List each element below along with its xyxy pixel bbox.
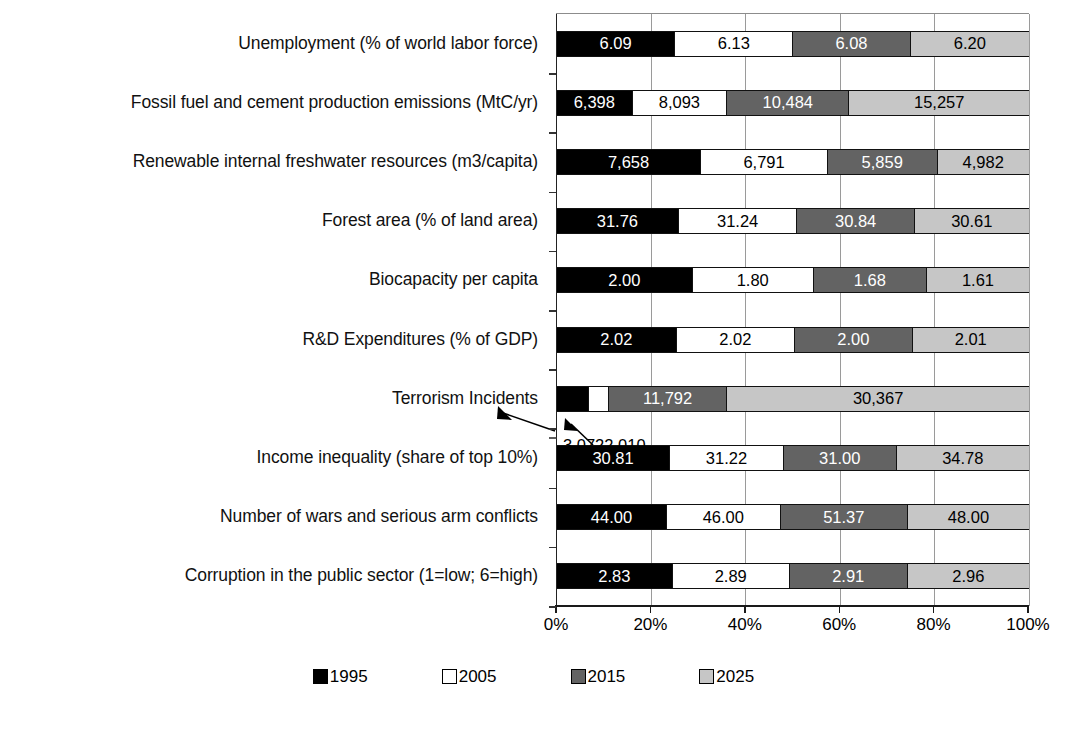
chart-legend: 1995200520152025 — [0, 668, 1067, 685]
legend-swatch-icon — [699, 669, 714, 684]
y-tick — [549, 310, 556, 312]
legend-label: 1995 — [330, 668, 368, 685]
x-tick-label: 80% — [917, 615, 951, 635]
bar-segment-2025[interactable]: 30.61 — [914, 209, 1029, 233]
category-label: Unemployment (% of world labor force) — [238, 30, 538, 56]
bar-segment-2015[interactable]: 1.68 — [813, 268, 926, 292]
bar-row[interactable]: 7,6586,7915,8594,982 — [557, 149, 1029, 175]
bar-segment-1995[interactable]: 6.09 — [557, 32, 674, 56]
bar-segment-2005[interactable]: 46.00 — [666, 505, 780, 529]
x-tick-label: 0% — [544, 615, 569, 635]
bar-segment-2005[interactable]: 2.02 — [676, 328, 795, 352]
bar-segment-2015[interactable]: 5,859 — [827, 150, 937, 174]
y-tick — [549, 369, 556, 371]
bar-segment-2005[interactable] — [588, 387, 608, 411]
bar-row[interactable]: 44.0046.0051.3748.00 — [557, 504, 1029, 530]
bar-row[interactable]: 6.096.136.086.20 — [557, 31, 1029, 57]
legend-item-2025[interactable]: 2025 — [699, 668, 754, 685]
y-tick — [549, 488, 556, 490]
stacked-bar-chart: Unemployment (% of world labor force)Fos… — [0, 0, 1067, 729]
legend-swatch-icon — [313, 669, 328, 684]
category-label: Renewable internal freshwater resources … — [133, 148, 538, 174]
category-label: Corruption in the public sector (1=low; … — [185, 562, 538, 588]
bar-segment-2015[interactable]: 31.00 — [783, 446, 896, 470]
bar-row[interactable]: 11,79230,367 — [557, 386, 1029, 412]
category-axis-labels: Unemployment (% of world labor force)Fos… — [0, 14, 548, 606]
bar-segment-1995[interactable]: 2.00 — [557, 268, 692, 292]
bar-row[interactable]: 2.832.892.912.96 — [557, 563, 1029, 589]
bar-segment-2025[interactable]: 2.96 — [907, 564, 1029, 588]
category-label: Number of wars and serious arm conflicts — [220, 503, 538, 529]
bar-segment-1995[interactable]: 2.02 — [557, 328, 676, 352]
bar-segment-2005[interactable]: 31.24 — [678, 209, 797, 233]
x-tick-label: 100% — [1006, 615, 1049, 635]
y-tick — [549, 428, 556, 430]
bar-segment-2015[interactable]: 30.84 — [796, 209, 913, 233]
category-label: Biocapacity per capita — [369, 266, 538, 292]
bar-segment-2015[interactable]: 2.91 — [789, 564, 907, 588]
bar-segment-1995[interactable]: 2.83 — [557, 564, 672, 588]
bar-segment-2005[interactable]: 1.80 — [692, 268, 813, 292]
bar-segment-1995[interactable]: 6,398 — [557, 91, 632, 115]
x-tick-20 — [650, 606, 652, 613]
bar-segment-1995[interactable]: 7,658 — [557, 150, 700, 174]
bar-row[interactable]: 6,3988,09310,48415,257 — [557, 90, 1029, 116]
bar-row[interactable]: 31.7631.2430.8430.61 — [557, 208, 1029, 234]
bar-segment-2015[interactable]: 2.00 — [794, 328, 911, 352]
bar-segment-2015[interactable]: 6.08 — [792, 32, 909, 56]
y-tick — [549, 132, 556, 134]
legend-swatch-icon — [442, 669, 457, 684]
category-label: Terrorism Incidents — [392, 385, 538, 411]
bar-segment-2015[interactable]: 10,484 — [726, 91, 848, 115]
legend-swatch-icon — [571, 669, 586, 684]
x-tick-60 — [839, 606, 841, 613]
bar-segment-1995[interactable] — [557, 387, 588, 411]
bar-row[interactable]: 2.001.801.681.61 — [557, 267, 1029, 293]
bar-segment-2015[interactable]: 51.37 — [780, 505, 907, 529]
bar-segment-2025[interactable]: 6.20 — [910, 32, 1029, 56]
category-label: Forest area (% of land area) — [322, 207, 538, 233]
bar-segment-2025[interactable]: 2.01 — [912, 328, 1029, 352]
legend-item-2015[interactable]: 2015 — [571, 668, 626, 685]
bar-segment-1995[interactable]: 44.00 — [557, 505, 666, 529]
bar-segment-2025[interactable]: 48.00 — [907, 505, 1029, 529]
bar-segment-2015[interactable]: 11,792 — [608, 387, 726, 411]
bar-segment-2025[interactable]: 4,982 — [937, 150, 1029, 174]
x-tick-40 — [744, 606, 746, 613]
bar-segment-1995[interactable]: 31.76 — [557, 209, 678, 233]
y-tick — [549, 606, 556, 608]
x-axis-line — [555, 605, 1029, 607]
x-tick-label: 60% — [822, 615, 856, 635]
legend-label: 2015 — [588, 668, 626, 685]
category-label: R&D Expenditures (% of GDP) — [302, 326, 538, 352]
plot-area: 6.096.136.086.206,3988,09310,48415,2577,… — [556, 14, 1030, 606]
legend-label: 2005 — [459, 668, 497, 685]
legend-item-1995[interactable]: 1995 — [313, 668, 368, 685]
bar-segment-2005[interactable]: 6,791 — [700, 150, 827, 174]
x-tick-label: 40% — [728, 615, 762, 635]
bar-segment-2025[interactable]: 30,367 — [726, 387, 1029, 411]
terrorism-annotation-label: 3,0722,010 — [563, 436, 646, 455]
bar-segment-2005[interactable]: 2.89 — [672, 564, 789, 588]
category-label: Income inequality (share of top 10%) — [257, 444, 538, 470]
x-tick-label: 20% — [633, 615, 667, 635]
bar-segment-2005[interactable]: 31.22 — [669, 446, 783, 470]
x-tick-100 — [1027, 606, 1029, 613]
bar-segment-2005[interactable]: 8,093 — [632, 91, 726, 115]
bar-segment-2025[interactable]: 34.78 — [896, 446, 1029, 470]
y-tick — [549, 251, 556, 253]
legend-label: 2025 — [716, 668, 754, 685]
legend-item-2005[interactable]: 2005 — [442, 668, 497, 685]
y-tick — [549, 192, 556, 194]
y-tick — [549, 547, 556, 549]
bar-segment-2005[interactable]: 6.13 — [674, 32, 792, 56]
y-tick — [549, 73, 556, 75]
bar-row[interactable]: 2.022.022.002.01 — [557, 327, 1029, 353]
x-tick-80 — [933, 606, 935, 613]
bar-segment-2025[interactable]: 1.61 — [926, 268, 1029, 292]
bar-segment-2025[interactable]: 15,257 — [848, 91, 1028, 115]
category-label: Fossil fuel and cement production emissi… — [131, 89, 538, 115]
